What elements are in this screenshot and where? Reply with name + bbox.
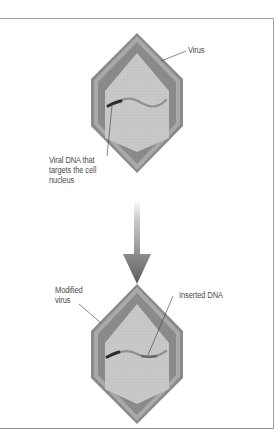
virus-label-text: Virus bbox=[188, 45, 204, 55]
virus-label-leader bbox=[161, 51, 186, 61]
virus-top bbox=[91, 33, 186, 173]
virus-label: Virus bbox=[188, 45, 204, 55]
modified-virus-label-line-1: Modified bbox=[55, 285, 83, 295]
modified-virus-label: Modified virus bbox=[55, 285, 83, 305]
inserted-dna-label-text: Inserted DNA bbox=[179, 290, 223, 300]
modified-virus-label-line-2: virus bbox=[55, 295, 83, 305]
viral-dna-label-line-2: targets the cell bbox=[49, 165, 96, 175]
viral-dna-label-line-3: nucleus bbox=[49, 175, 96, 185]
virus-bottom bbox=[79, 284, 183, 424]
down-arrow-icon bbox=[123, 200, 151, 284]
viral-dna-label-line-1: Viral DNA that bbox=[49, 155, 96, 165]
inserted-dna-segment bbox=[142, 356, 156, 357]
diagram-canvas bbox=[0, 0, 277, 441]
viral-dna-label: Viral DNA that targets the cell nucleus bbox=[49, 155, 96, 185]
inserted-dna-label: Inserted DNA bbox=[179, 290, 223, 300]
virus-modification-diagram: Virus Viral DNA that targets the cell nu… bbox=[0, 0, 277, 441]
modified-virus-leader bbox=[79, 304, 101, 323]
